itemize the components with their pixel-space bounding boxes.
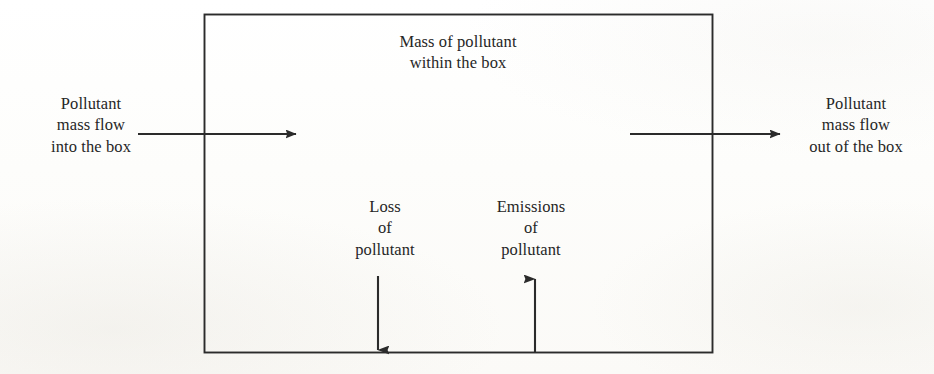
outflow-label-line-3: out of the box	[782, 136, 930, 157]
outflow-label: Pollutant mass flow out of the box	[782, 93, 930, 157]
emissions-label-line-2: of	[472, 217, 590, 238]
loss-label: Loss of pollutant	[333, 196, 437, 260]
outflow-label-line-2: mass flow	[782, 114, 930, 135]
loss-label-line-2: of	[333, 217, 437, 238]
emissions-label-line-1: Emissions	[472, 196, 590, 217]
loss-label-line-3: pollutant	[333, 239, 437, 260]
emissions-label-line-3: pollutant	[472, 239, 590, 260]
box-title-line-2: within the box	[358, 52, 558, 73]
box-title-line-1: Mass of pollutant	[358, 31, 558, 52]
inflow-label-line-3: into the box	[16, 136, 166, 157]
outflow-label-line-1: Pollutant	[782, 93, 930, 114]
loss-label-line-1: Loss	[333, 196, 437, 217]
box-model-diagram: Mass of pollutant within the box Polluta…	[0, 0, 934, 374]
emissions-label: Emissions of pollutant	[472, 196, 590, 260]
box-title-label: Mass of pollutant within the box	[358, 31, 558, 74]
inflow-label-line-1: Pollutant	[16, 93, 166, 114]
inflow-label-line-2: mass flow	[16, 114, 166, 135]
inflow-label: Pollutant mass flow into the box	[16, 93, 166, 157]
